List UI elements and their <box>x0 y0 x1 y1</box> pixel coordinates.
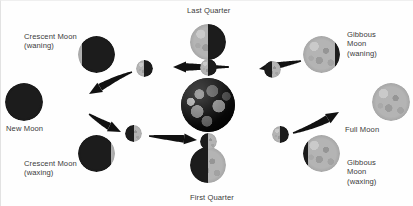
orbit-moon-lower-left <box>125 125 142 142</box>
label-gibbous-waxing: Gibbous Moon (waxing) <box>347 158 377 186</box>
moon-edge-shading <box>303 135 340 172</box>
moon-edge-shading <box>190 147 226 183</box>
moon-phases-diagram: Last QuarterGibbous Moon (waning)Crescen… <box>0 0 413 206</box>
outer-moon-last-quarter <box>190 24 226 60</box>
moon-edge-shading <box>372 83 410 121</box>
moon-edge-shading <box>78 135 115 172</box>
label-first-quarter: First Quarter <box>190 193 234 202</box>
moon-edge-shading <box>264 61 281 78</box>
orbit-moon-top <box>200 59 217 76</box>
earth-shading <box>181 78 235 132</box>
outer-moon-gibbous-waning <box>303 36 340 73</box>
orbit-moon-lower-right <box>272 126 289 143</box>
arrow-head <box>173 62 186 73</box>
moon-edge-shading <box>303 36 340 73</box>
arrow-shaft <box>293 115 330 133</box>
moon-edge-shading <box>136 60 153 77</box>
label-new-moon: New Moon <box>6 124 43 133</box>
arrow-bottom-left-out <box>89 113 121 132</box>
moon-edge-shading <box>200 59 217 76</box>
outer-moon-new <box>5 83 43 121</box>
label-crescent-waxing: Crescent Moon (waxing) <box>24 159 77 178</box>
arrow-head <box>184 134 197 145</box>
arrow-shaft <box>149 135 184 143</box>
arrow-bottom-center <box>149 134 197 145</box>
outer-moon-first-quarter <box>190 147 226 183</box>
orbit-moon-upper-left <box>136 60 153 77</box>
label-last-quarter: Last Quarter <box>187 6 230 15</box>
arrow-top-left-outbound <box>89 71 132 94</box>
outer-moon-gibbous-waxing <box>303 135 340 172</box>
moon-edge-shading <box>125 125 142 142</box>
orbit-moon-bottom <box>200 133 217 150</box>
arrow-bottom-right-out <box>293 112 339 134</box>
arrow-shaft <box>98 71 132 90</box>
moon-edge-shading <box>5 83 43 121</box>
moon-edge-shading <box>78 36 115 73</box>
moon-edge-shading <box>190 24 226 60</box>
outer-moon-crescent-waxing <box>78 135 115 172</box>
orbit-moon-upper-right <box>264 61 281 78</box>
outer-moon-crescent-waning <box>78 36 115 73</box>
moon-edge-shading <box>272 126 289 143</box>
arrow-shaft <box>89 113 111 129</box>
label-gibbous-waning: Gibbous Moon (waning) <box>347 30 377 58</box>
moon-edge-shading <box>200 133 217 150</box>
label-full-moon: Full Moon <box>345 125 379 134</box>
outer-moon-full <box>372 83 410 121</box>
earth <box>181 78 235 132</box>
label-crescent-waning: Crescent Moon (waning) <box>24 32 77 51</box>
